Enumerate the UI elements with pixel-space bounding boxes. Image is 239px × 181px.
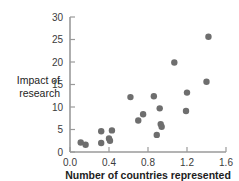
data-point [107,138,113,144]
data-point [157,105,163,111]
y-tick-label: 10 [52,102,64,113]
x-tick-label: 0.8 [141,157,155,168]
x-tick-label: 0.4 [102,157,116,168]
data-point [171,59,177,65]
data-point [184,89,190,95]
data-point [205,34,211,40]
y-axis-title: Impact ofresearch [17,74,60,99]
data-points [78,34,212,148]
data-point [82,142,88,148]
data-point [127,94,133,100]
y-tick-label: 5 [57,124,63,135]
x-tick-label: 0.0 [63,157,77,168]
data-point [109,127,115,133]
y-tick-label: 20 [52,57,64,68]
data-point [140,111,146,117]
x-axis-title: Number of countries represented [65,169,231,181]
y-tick-label: 25 [52,34,64,45]
data-point [98,140,104,146]
data-point [98,128,104,134]
data-point [203,79,209,85]
data-point [158,124,164,130]
y-tick-label: 30 [52,12,64,23]
data-point [183,108,189,114]
data-point [151,93,157,99]
y-axis-title-line: research [19,87,60,99]
axis-spines [70,17,226,152]
y-axis-title-line: Impact of [17,74,60,86]
x-tick-label: 1.6 [219,157,233,168]
scatter-chart: 051015202530 0.00.40.81.21.6 Impact ofre… [0,0,239,181]
y-tick-label: 0 [57,147,63,158]
x-tick-label: 1.2 [180,157,194,168]
chart-canvas: 051015202530 0.00.40.81.21.6 Impact ofre… [0,0,239,181]
data-point [135,117,141,123]
data-point [154,132,160,138]
x-axis-ticks: 0.00.40.81.21.6 [63,147,233,168]
